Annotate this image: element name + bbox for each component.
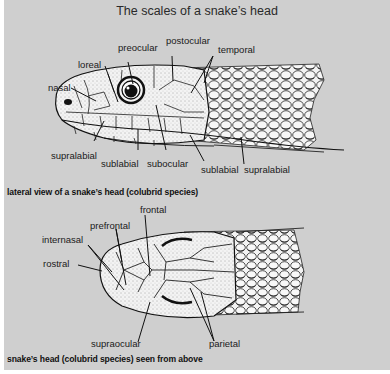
dorsal-caption: snake’s head (colubrid species) seen fro… [7, 354, 203, 364]
figure-panel: The scales of a snake’s head [4, 0, 390, 370]
label-sublabial-right: sublabial [201, 164, 239, 175]
label-supralabial-right: supralabial [244, 164, 290, 175]
label-supralabial-left: supralabial [51, 150, 97, 161]
label-frontal: frontal [140, 204, 166, 215]
lateral-caption: lateral view of a snake’s head (colubrid… [7, 187, 198, 197]
lateral-head-drawing [56, 64, 344, 152]
label-preocular: preocular [118, 42, 158, 53]
label-internasal: internasal [42, 234, 83, 245]
label-sublabial-left: sublabial [101, 158, 139, 169]
label-prefrontal: prefrontal [90, 220, 130, 231]
label-postocular: postocular [166, 35, 210, 46]
illustrations [4, 0, 390, 370]
label-rostral: rostral [43, 258, 69, 269]
label-subocular: subocular [147, 158, 188, 169]
label-loreal: loreal [78, 59, 101, 70]
label-nasal: nasal [48, 82, 71, 93]
dorsal-head-drawing [100, 228, 304, 318]
label-supraocular: supraocular [91, 338, 141, 349]
label-parietal: parietal [209, 338, 240, 349]
label-temporal: temporal [218, 44, 255, 55]
